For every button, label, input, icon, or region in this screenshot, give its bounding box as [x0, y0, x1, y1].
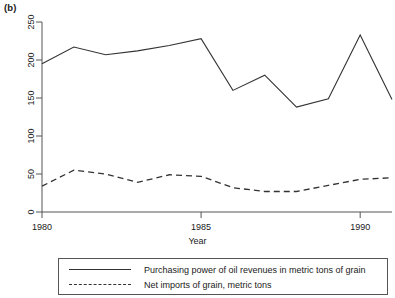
y-tick-label: 250 — [26, 14, 36, 29]
series-line-dashed — [42, 170, 392, 191]
y-tick-label: 0 — [26, 209, 36, 214]
y-tick-label: 50 — [26, 169, 36, 179]
legend-entry-0: Purchasing power of oil revenues in metr… — [59, 263, 387, 277]
y-tick-label: 150 — [26, 90, 36, 105]
x-tick-label: 1985 — [191, 222, 211, 232]
y-tick-label: 100 — [26, 128, 36, 143]
y-tick-label: 200 — [26, 52, 36, 67]
legend-entry-1: Net imports of grain, metric tons — [59, 278, 387, 292]
line-key-dashed-icon — [69, 284, 131, 286]
y-tick-group: 050100150200250 — [26, 14, 42, 214]
axes — [42, 22, 392, 212]
legend-label-1: Net imports of grain, metric tons — [144, 278, 272, 292]
x-tick-label: 1980 — [32, 222, 52, 232]
figure-panel: (b) Millions of metric tons of grain Yea… — [0, 0, 395, 298]
series-line-solid — [42, 35, 392, 107]
plot-area: 050100150200250 198019851990 — [0, 0, 395, 250]
x-tick-group: 198019851990 — [32, 212, 370, 232]
legend-label-0: Purchasing power of oil revenues in metr… — [144, 263, 366, 277]
legend-box: Purchasing power of oil revenues in metr… — [58, 258, 388, 295]
x-tick-label: 1990 — [350, 222, 370, 232]
data-series-group — [42, 35, 392, 192]
line-key-solid-icon — [69, 269, 131, 271]
